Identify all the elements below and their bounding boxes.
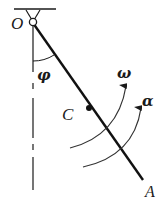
rod-OA (33, 23, 143, 180)
label-angle-phi: φ (37, 66, 51, 84)
label-alpha: α (142, 92, 154, 110)
label-pivot-O: O (11, 14, 23, 33)
label-end-A: A (144, 183, 155, 200)
pendulum-diagram: O φ C A ω α (0, 0, 167, 206)
pivot-joint (29, 18, 36, 25)
label-center-C: C (62, 105, 74, 124)
label-omega: ω (117, 64, 131, 82)
center-of-mass-point (86, 105, 92, 111)
angle-arc (33, 55, 54, 61)
